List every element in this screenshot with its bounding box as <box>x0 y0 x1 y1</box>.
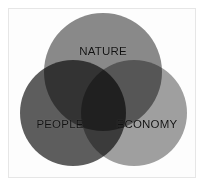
venn-label-nature: NATURE <box>79 46 127 58</box>
venn-circle-economy[interactable] <box>81 60 187 166</box>
venn-label-people: PEOPLE <box>36 119 83 131</box>
venn-diagram-figure: NATURE PEOPLE ECONOMY <box>0 0 205 194</box>
venn-label-economy: ECONOMY <box>117 119 178 131</box>
venn-circles-svg <box>0 0 205 194</box>
venn-stage: NATURE PEOPLE ECONOMY <box>0 0 205 194</box>
